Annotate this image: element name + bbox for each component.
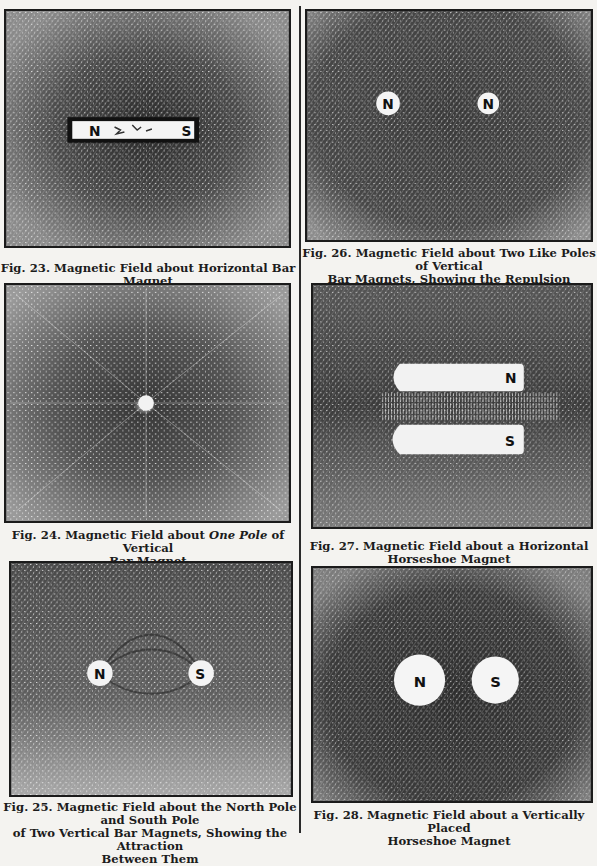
iron-filings-vertical-horseshoe: N S <box>313 568 591 801</box>
iron-filings-horizontal-bar-magnet: N S <box>6 11 289 246</box>
iron-filings-like-poles-repulsion: N N <box>307 11 591 240</box>
figure-23-image: N S <box>4 9 291 248</box>
caption-line: Fig. 28. Magnetic Field about a Vertical… <box>301 809 597 835</box>
caption-line: Between Them <box>0 853 300 866</box>
caption-line: Fig. 26. Magnetic Field about Two Like P… <box>301 247 597 273</box>
caption-line: of Two Vertical Bar Magnets, Showing the… <box>0 827 300 853</box>
svg-text:S: S <box>490 673 501 690</box>
figure-28-caption: Fig. 28. Magnetic Field about a Vertical… <box>301 809 597 848</box>
svg-text:N: N <box>89 123 101 139</box>
column-divider <box>299 6 301 833</box>
figure-27-image: N S <box>311 283 593 529</box>
figure-25-caption: Fig. 25. Magnetic Field about the North … <box>0 801 300 866</box>
svg-text:N: N <box>414 673 426 690</box>
iron-filings-north-south-attraction: N S <box>11 563 291 795</box>
figure-26-image: N N <box>305 9 593 242</box>
svg-text:S: S <box>505 433 515 449</box>
svg-text:N: N <box>482 96 494 112</box>
iron-filings-single-pole <box>6 285 289 521</box>
caption-line: Horseshoe Magnet <box>301 553 597 566</box>
svg-text:S: S <box>181 123 191 139</box>
svg-text:S: S <box>195 666 205 682</box>
svg-text:N: N <box>382 96 394 112</box>
iron-filings-horizontal-horseshoe: N S <box>313 285 591 527</box>
figure-24-image <box>4 283 291 523</box>
svg-text:N: N <box>505 370 517 386</box>
caption-line: Fig. 24. Magnetic Field about One Pole o… <box>0 529 296 555</box>
figure-28-image: N S <box>311 566 593 803</box>
svg-text:N: N <box>94 666 106 682</box>
caption-line: Horseshoe Magnet <box>301 835 597 848</box>
figure-25-image: N S <box>9 561 293 797</box>
figure-27-caption: Fig. 27. Magnetic Field about a Horizont… <box>301 540 597 566</box>
caption-line: Fig. 25. Magnetic Field about the North … <box>0 801 300 827</box>
